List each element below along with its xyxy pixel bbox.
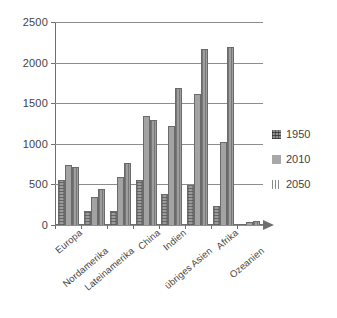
y-axis-label-2500: 2500 [23, 16, 48, 28]
bar-group-china [133, 22, 159, 225]
hatch-swatch-1950 [272, 130, 281, 139]
bar-group-nordamerika [82, 22, 108, 225]
bar-nordamerika-2010 [91, 197, 98, 225]
x-axis-label-ozeanien: Ozeanien [227, 245, 266, 280]
bar-afrika-1950 [213, 206, 220, 225]
legend-label-1950: 1950 [286, 128, 310, 140]
legend-item-2050[interactable]: 2050 [272, 178, 310, 190]
bar-europa-1950 [58, 180, 65, 225]
x-axis-category-labels: EuropaNordamerikaLateinamerikaChinaIndie… [55, 227, 263, 317]
y-axis-label-1000: 1000 [23, 138, 48, 150]
lines-swatch-2050 [272, 180, 281, 189]
bar-nordamerika-2050 [98, 189, 105, 225]
bar-china-2010 [143, 116, 150, 225]
bar-ozeanien-1950 [239, 224, 246, 225]
legend-label-2010: 2010 [286, 153, 310, 165]
bar-group-übriges-asien [185, 22, 211, 225]
bar-übriges-asien-2050 [201, 49, 208, 225]
x-axis-arrow-icon [263, 220, 274, 230]
bar-indien-2050 [175, 88, 182, 225]
bar-übriges-asien-2010 [194, 94, 201, 225]
x-axis-label-europa: Europa [53, 227, 84, 256]
x-axis-label-indien: Indien [161, 227, 188, 252]
bar-afrika-2010 [220, 142, 227, 225]
bar-übriges-asien-1950 [187, 185, 194, 225]
bar-lateinamerika-2010 [117, 177, 124, 225]
legend-label-2050: 2050 [286, 178, 310, 190]
bar-indien-2010 [168, 126, 175, 225]
bar-china-1950 [136, 180, 143, 225]
bar-chart: 05001000150020002500 EuropaNordamerikaLa… [0, 0, 337, 318]
y-axis-label-1500: 1500 [23, 97, 48, 109]
bar-ozeanien-2010 [246, 222, 253, 225]
bar-group-afrika [211, 22, 237, 225]
bar-nordamerika-1950 [84, 211, 91, 225]
solid-swatch-2010 [272, 155, 281, 164]
bar-europa-2050 [72, 167, 79, 225]
y-axis-label-0: 0 [42, 219, 48, 231]
x-tick-mark-8 [263, 225, 264, 229]
y-axis-label-2000: 2000 [23, 57, 48, 69]
bar-group-ozeanien [236, 22, 262, 225]
bar-china-2050 [150, 120, 157, 225]
bar-lateinamerika-1950 [110, 211, 117, 225]
bar-lateinamerika-2050 [124, 163, 131, 225]
bar-group-indien [159, 22, 185, 225]
bar-group-europa [56, 22, 82, 225]
bar-ozeanien-2050 [253, 221, 260, 225]
bar-groups [55, 22, 263, 225]
y-axis-label-500: 500 [29, 178, 48, 190]
x-axis-label-china: China [136, 227, 162, 252]
bar-group-lateinamerika [108, 22, 134, 225]
legend-item-1950[interactable]: 1950 [272, 128, 310, 140]
legend-item-2010[interactable]: 2010 [272, 153, 310, 165]
plot-area: 05001000150020002500 [55, 22, 263, 225]
x-axis-label-übriges-asien: übriges Asien [162, 245, 214, 291]
bar-europa-2010 [65, 165, 72, 225]
x-axis-label-afrika: Afrika [214, 227, 240, 251]
bar-indien-1950 [161, 194, 168, 225]
chart-legend: 195020102050 [272, 128, 310, 190]
bar-afrika-2050 [227, 47, 234, 225]
